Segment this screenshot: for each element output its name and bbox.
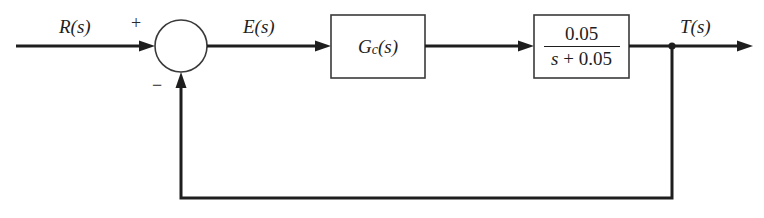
plus-sign: +: [131, 14, 141, 32]
controller-name: G: [358, 36, 372, 58]
plant-denominator: s + 0.05: [551, 47, 612, 69]
plant-denominator-rest: + 0.05: [558, 48, 611, 69]
summing-junction: [155, 20, 207, 72]
output-signal-arg: (s): [691, 16, 711, 37]
control-arrowhead-icon: [518, 41, 534, 52]
plant-numerator: 0.05: [563, 24, 600, 46]
minus-sign: −: [152, 76, 162, 94]
error-signal-arg: (s): [255, 16, 275, 37]
plant-transfer-function: 0.05 s + 0.05: [534, 15, 629, 78]
error-arrowhead-icon: [315, 41, 331, 52]
output-arrowhead-icon: [737, 41, 753, 52]
input-signal-label: R(s): [59, 17, 91, 36]
input-signal-arg: (s): [71, 16, 91, 37]
error-signal-name: E: [243, 16, 255, 37]
controller-transfer-function: Gc(s): [331, 15, 425, 78]
controller-arg: (s): [378, 36, 398, 58]
output-signal-name: T: [680, 16, 691, 37]
output-signal-label: T(s): [680, 17, 711, 36]
input-arrowhead-icon: [139, 41, 155, 52]
error-signal-label: E(s): [243, 17, 275, 36]
plant-fraction: 0.05 s + 0.05: [544, 24, 620, 69]
input-signal-name: R: [59, 16, 71, 37]
feedback-arrowhead-icon: [176, 72, 187, 88]
controller-subscript: c: [372, 42, 378, 58]
